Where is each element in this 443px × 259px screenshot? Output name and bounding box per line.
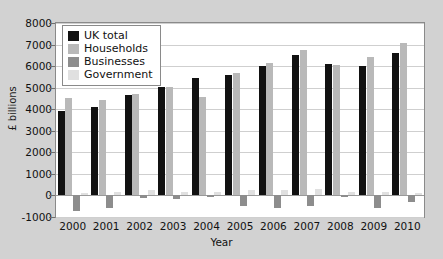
bar: [359, 66, 366, 195]
x-axis-tick-label: 2010: [388, 220, 426, 232]
bar: [214, 192, 221, 196]
bar: [392, 53, 399, 195]
bar: [325, 64, 332, 195]
y-axis-tick: [49, 217, 55, 218]
bar-group: [223, 23, 256, 217]
bar: [106, 195, 113, 208]
bar: [374, 195, 381, 208]
bar: [274, 195, 281, 207]
x-axis-title: Year: [0, 236, 443, 248]
y-axis-tick: [49, 195, 55, 196]
y-axis-tick-label: 4000: [6, 103, 52, 115]
legend-swatch-icon: [68, 70, 79, 80]
legend-swatch-icon: [68, 57, 79, 67]
x-axis-tick-label: 2005: [221, 220, 259, 232]
bar: [65, 98, 72, 195]
bar-group: [290, 23, 323, 217]
bar: [173, 195, 180, 199]
bar-chart: £ billions 80007000600050004000300020001…: [0, 0, 443, 259]
legend-item-businesses: Businesses: [68, 55, 153, 68]
x-axis-tick-label: 2007: [288, 220, 326, 232]
y-axis-tick-label: 2000: [6, 146, 52, 158]
y-axis-tick-label: 8000: [6, 17, 52, 29]
bar-group: [257, 23, 290, 217]
bar: [225, 75, 232, 196]
y-axis-tick-label: 6000: [6, 60, 52, 72]
bar: [367, 57, 374, 195]
x-axis-tick-label: 2003: [154, 220, 192, 232]
bar: [259, 66, 266, 195]
bar: [240, 195, 247, 205]
bar: [114, 192, 121, 196]
y-axis-tick: [49, 45, 55, 46]
bar: [125, 95, 132, 195]
y-axis-tick: [49, 66, 55, 67]
bar: [148, 190, 155, 195]
y-axis-tick: [49, 131, 55, 132]
legend-label: UK total: [84, 29, 128, 42]
bar: [132, 94, 139, 195]
x-axis-tick-label: 2009: [355, 220, 393, 232]
bar-group: [391, 23, 424, 217]
bar: [192, 78, 199, 195]
bar: [292, 55, 299, 195]
bar-group: [156, 23, 189, 217]
y-axis-tick: [49, 152, 55, 153]
y-axis-tick-label: 0: [6, 189, 52, 201]
bar: [140, 195, 147, 198]
bar-group: [190, 23, 223, 217]
x-axis-tick-label: 2000: [54, 220, 92, 232]
bar: [341, 195, 348, 197]
bar: [91, 107, 98, 195]
y-axis-tick-label: 1000: [6, 168, 52, 180]
y-axis-tick: [49, 174, 55, 175]
legend-label: Government: [84, 68, 153, 81]
y-axis-tick-label: 5000: [6, 82, 52, 94]
bar: [181, 192, 188, 196]
x-axis-tick-label: 2001: [87, 220, 125, 232]
bar: [348, 192, 355, 196]
legend: UK total Households Businesses Governmen…: [62, 25, 161, 86]
bar: [266, 63, 273, 196]
bar: [233, 73, 240, 196]
bar: [408, 195, 415, 201]
bar: [300, 50, 307, 196]
bar: [315, 189, 322, 195]
y-axis-tick-label: -1000: [6, 211, 52, 223]
x-axis-tick-label: 2004: [188, 220, 226, 232]
legend-swatch-icon: [68, 44, 79, 54]
y-axis-tick: [49, 109, 55, 110]
x-axis-tick-label: 2008: [321, 220, 359, 232]
bar: [281, 190, 288, 195]
bar: [58, 111, 65, 195]
bar: [207, 195, 214, 197]
bar: [307, 195, 314, 205]
bar: [158, 87, 165, 196]
y-axis-tick: [49, 23, 55, 24]
bar: [333, 65, 340, 195]
bar: [415, 193, 422, 195]
y-axis-tick-label: 7000: [6, 39, 52, 51]
y-axis-tick: [49, 88, 55, 89]
bar: [400, 43, 407, 195]
bar: [99, 100, 106, 196]
y-axis-tick-label: 3000: [6, 125, 52, 137]
bar-group: [357, 23, 390, 217]
legend-label: Businesses: [84, 55, 145, 68]
bar: [81, 193, 88, 196]
bar: [382, 192, 389, 195]
x-axis-tick-label: 2002: [121, 220, 159, 232]
legend-item-government: Government: [68, 68, 153, 81]
bar: [166, 87, 173, 196]
bar: [248, 190, 255, 195]
bar-group: [324, 23, 357, 217]
legend-item-uk-total: UK total: [68, 29, 153, 42]
bar: [73, 195, 80, 210]
legend-label: Households: [84, 42, 148, 55]
legend-swatch-icon: [68, 31, 79, 41]
gridline: [56, 217, 424, 218]
x-axis-tick-label: 2006: [254, 220, 292, 232]
bar: [199, 97, 206, 196]
legend-item-households: Households: [68, 42, 153, 55]
